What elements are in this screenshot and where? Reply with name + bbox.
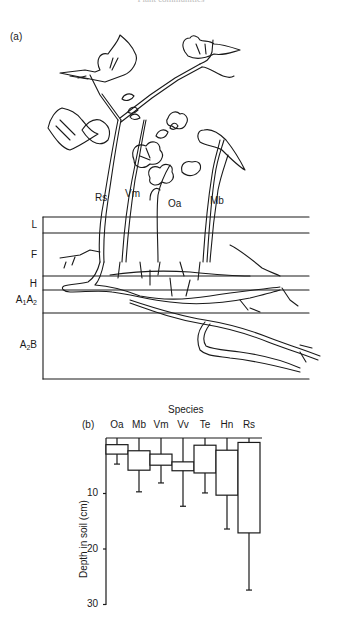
y-tick-20: 20 bbox=[78, 543, 98, 554]
y-tick-10: 10 bbox=[78, 487, 98, 498]
rooting-depth-chart bbox=[0, 0, 342, 630]
box-mb bbox=[128, 451, 150, 470]
y-axis-title: Depth in soil (cm) bbox=[78, 500, 89, 578]
box-hn bbox=[216, 450, 238, 495]
box-rs bbox=[238, 442, 260, 532]
box-vm bbox=[150, 454, 172, 465]
y-tick-30: 30 bbox=[78, 598, 98, 609]
box-te bbox=[194, 445, 216, 473]
box-oa bbox=[106, 445, 128, 454]
box-vv bbox=[172, 462, 194, 471]
